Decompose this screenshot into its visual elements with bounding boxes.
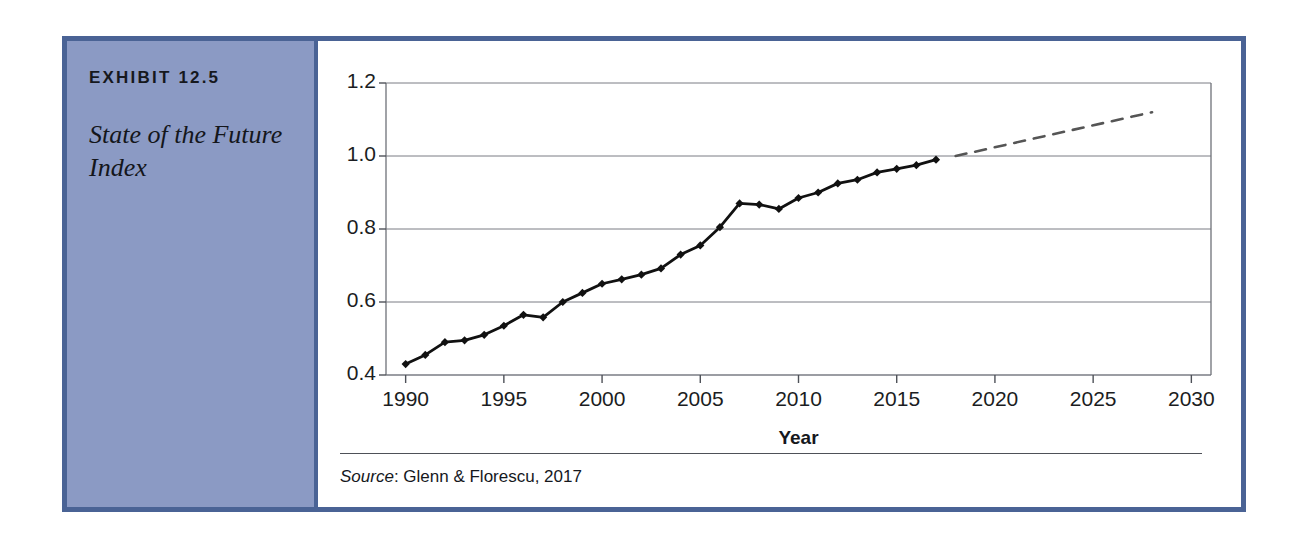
line-chart: 0.40.60.81.01.21990199520002005201020152… (318, 41, 1243, 517)
y-tick-label: 1.0 (318, 142, 376, 166)
source-divider (340, 453, 1202, 454)
y-tick-label: 0.8 (318, 215, 376, 239)
x-axis-title: Year (699, 427, 899, 449)
source-separator: : (394, 467, 403, 486)
x-tick-label: 1990 (366, 387, 446, 411)
x-tick-label: 1995 (464, 387, 544, 411)
exhibit-sidebar: EXHIBIT 12.5 State of the Future Index (67, 41, 318, 507)
x-tick-label: 2025 (1053, 387, 1133, 411)
source-text: Glenn & Florescu, 2017 (403, 467, 582, 486)
x-tick-label: 2030 (1151, 387, 1231, 411)
chart-plot-svg (318, 41, 1243, 441)
source-prefix: Source (340, 467, 394, 486)
x-tick-label: 2020 (955, 387, 1035, 411)
x-tick-label: 2015 (857, 387, 937, 411)
y-tick-label: 0.4 (318, 361, 376, 385)
x-tick-label: 2010 (759, 387, 839, 411)
x-tick-label: 2000 (562, 387, 642, 411)
y-tick-label: 1.2 (318, 69, 376, 93)
chart-panel: 0.40.60.81.01.21990199520002005201020152… (318, 41, 1241, 507)
exhibit-frame: EXHIBIT 12.5 State of the Future Index 0… (62, 36, 1246, 512)
x-tick-label: 2005 (660, 387, 740, 411)
y-tick-label: 0.6 (318, 288, 376, 312)
exhibit-title: State of the Future Index (89, 118, 304, 185)
source-note: Source: Glenn & Florescu, 2017 (340, 467, 582, 487)
exhibit-number-label: EXHIBIT 12.5 (89, 68, 314, 88)
